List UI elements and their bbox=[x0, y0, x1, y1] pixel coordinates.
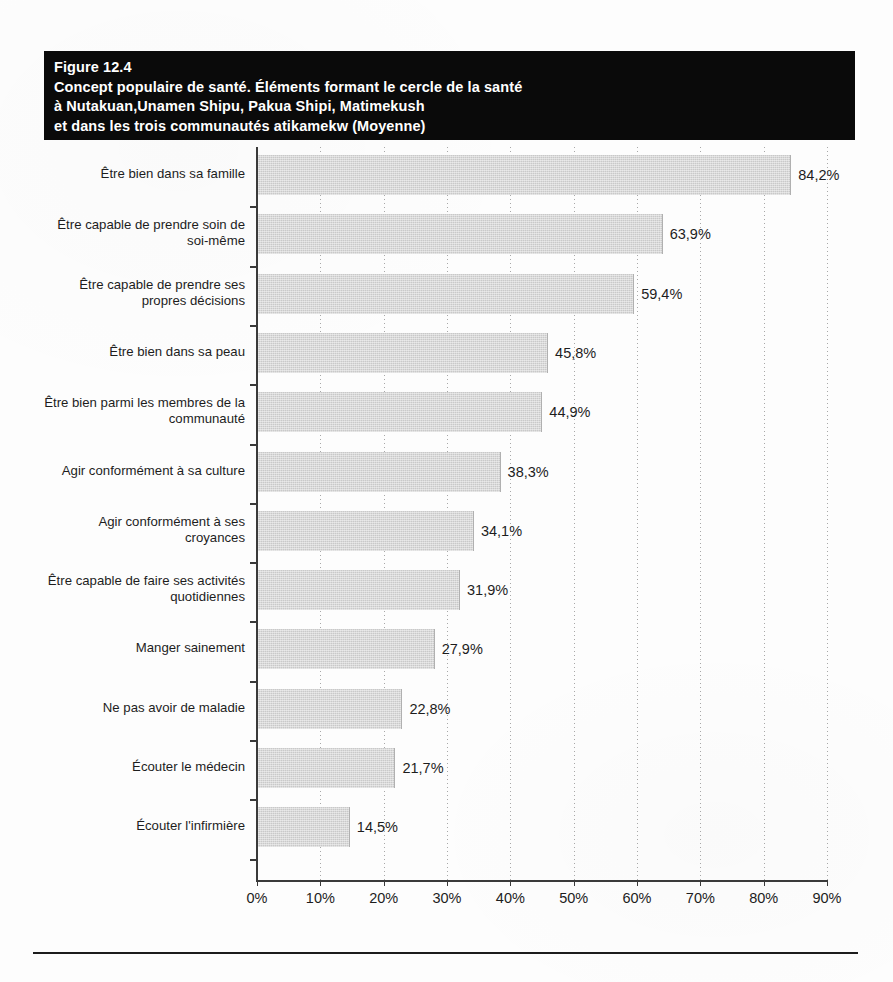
x-tick-label: 50% bbox=[544, 890, 604, 906]
gridline bbox=[764, 147, 765, 880]
bar bbox=[258, 807, 350, 847]
x-tick-label: 90% bbox=[797, 890, 857, 906]
category-label: Écouter le médecin bbox=[30, 759, 245, 775]
x-tick-label: 30% bbox=[417, 890, 477, 906]
gridline bbox=[827, 147, 828, 880]
bar-chart: 84,2%63,9%59,4%45,8%44,9%38,3%34,1%31,9%… bbox=[0, 0, 893, 982]
category-label: Être bien parmi les membres de lacommuna… bbox=[30, 395, 245, 427]
x-tick bbox=[764, 880, 765, 886]
category-label: Être bien dans sa peau bbox=[30, 344, 245, 360]
x-tick bbox=[637, 880, 638, 886]
bar bbox=[258, 689, 402, 729]
x-tick bbox=[320, 880, 321, 886]
category-label-line: Être capable de prendre soin de bbox=[30, 217, 245, 233]
x-tick bbox=[447, 880, 448, 886]
category-label-line: Ne pas avoir de maladie bbox=[30, 700, 245, 716]
bar bbox=[258, 333, 548, 373]
y-tick bbox=[250, 384, 257, 386]
bar bbox=[258, 511, 474, 551]
x-tick bbox=[510, 880, 511, 886]
x-tick-label: 80% bbox=[734, 890, 794, 906]
bar-value-label: 21,7% bbox=[402, 748, 443, 788]
bar bbox=[258, 392, 542, 432]
category-label: Ne pas avoir de maladie bbox=[30, 700, 245, 716]
category-label: Être capable de prendre soin desoi-même bbox=[30, 217, 245, 249]
x-tick bbox=[384, 880, 385, 886]
x-tick-label: 20% bbox=[354, 890, 414, 906]
x-tick bbox=[574, 880, 575, 886]
category-label: Être capable de prendre sespropres décis… bbox=[30, 277, 245, 309]
x-tick bbox=[827, 880, 828, 886]
category-label-line: communauté bbox=[30, 411, 245, 427]
bar-value-label: 14,5% bbox=[357, 807, 398, 847]
bar-value-label: 34,1% bbox=[481, 511, 522, 551]
category-label-line: Être bien dans sa famille bbox=[30, 166, 245, 182]
y-axis-line bbox=[256, 147, 258, 882]
category-label-line: Agir conformément à ses bbox=[30, 514, 245, 530]
bar-value-label: 27,9% bbox=[442, 629, 483, 669]
x-tick bbox=[257, 880, 258, 886]
x-axis-line bbox=[256, 880, 827, 882]
bar-value-label: 84,2% bbox=[798, 155, 839, 195]
gridline bbox=[700, 147, 701, 880]
category-label: Être capable de faire ses activitésquoti… bbox=[30, 573, 245, 605]
category-label-line: Écouter l'infirmière bbox=[30, 818, 245, 834]
bar-value-label: 59,4% bbox=[641, 274, 682, 314]
bar bbox=[258, 274, 634, 314]
y-tick bbox=[250, 562, 257, 564]
x-tick-label: 40% bbox=[480, 890, 540, 906]
category-label-line: propres décisions bbox=[30, 293, 245, 309]
bottom-rule bbox=[33, 952, 858, 954]
y-tick bbox=[250, 325, 257, 327]
bar bbox=[258, 570, 460, 610]
x-tick-label: 70% bbox=[670, 890, 730, 906]
gridline bbox=[574, 147, 575, 880]
category-label-line: Être capable de faire ses activités bbox=[30, 573, 245, 589]
y-tick bbox=[250, 799, 257, 801]
bar-value-label: 44,9% bbox=[549, 392, 590, 432]
category-label-line: Écouter le médecin bbox=[30, 759, 245, 775]
bar-value-label: 38,3% bbox=[508, 452, 549, 492]
category-label-line: Être capable de prendre ses bbox=[30, 277, 245, 293]
x-tick-label: 60% bbox=[607, 890, 667, 906]
bar bbox=[258, 748, 395, 788]
category-label-line: soi-même bbox=[30, 233, 245, 249]
category-label-line: Être bien dans sa peau bbox=[30, 344, 245, 360]
x-tick-label: 0% bbox=[227, 890, 287, 906]
y-tick bbox=[250, 740, 257, 742]
bar-value-label: 22,8% bbox=[409, 689, 450, 729]
gridline bbox=[637, 147, 638, 880]
x-tick bbox=[700, 880, 701, 886]
y-tick bbox=[250, 206, 257, 208]
category-label: Agir conformément à sa culture bbox=[30, 463, 245, 479]
category-label: Écouter l'infirmière bbox=[30, 818, 245, 834]
bar-value-label: 45,8% bbox=[555, 333, 596, 373]
bar-value-label: 31,9% bbox=[467, 570, 508, 610]
y-tick bbox=[250, 444, 257, 446]
category-label-line: Agir conformément à sa culture bbox=[30, 463, 245, 479]
category-label-line: Manger sainement bbox=[30, 640, 245, 656]
y-tick bbox=[250, 266, 257, 268]
bar bbox=[258, 452, 501, 492]
category-label: Agir conformément à sescroyances bbox=[30, 514, 245, 546]
x-tick-label: 10% bbox=[290, 890, 350, 906]
category-label: Manger sainement bbox=[30, 640, 245, 656]
category-label-line: quotidiennes bbox=[30, 589, 245, 605]
category-label-line: croyances bbox=[30, 530, 245, 546]
category-label-line: Être bien parmi les membres de la bbox=[30, 395, 245, 411]
bar bbox=[258, 155, 791, 195]
y-tick bbox=[250, 681, 257, 683]
bar bbox=[258, 629, 435, 669]
bar-value-label: 63,9% bbox=[670, 214, 711, 254]
bar bbox=[258, 214, 663, 254]
y-tick bbox=[250, 859, 257, 861]
y-tick bbox=[250, 503, 257, 505]
category-label: Être bien dans sa famille bbox=[30, 166, 245, 182]
y-tick bbox=[250, 621, 257, 623]
